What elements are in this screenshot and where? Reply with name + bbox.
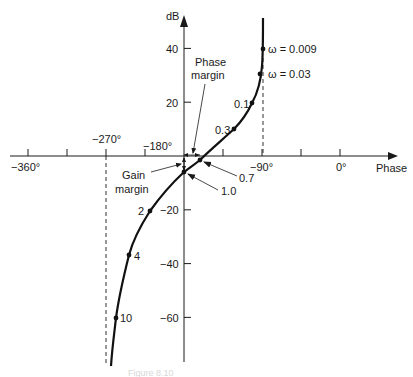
point-label-0.1: 0.1 [234, 98, 249, 110]
point-label-omega-0.03: ω = 0.03 [268, 68, 311, 80]
point-label-10: 10 [120, 312, 132, 324]
leader-arrow-0.7 [204, 162, 237, 176]
phase-margin-leader-arrow [193, 84, 205, 153]
x-axis: −360° −270° −180° −90° 0° Phase [10, 133, 407, 174]
x-tick-label-0: 0° [336, 161, 347, 173]
phase-margin-label-line2: margin [191, 69, 225, 81]
x-axis-label: Phase [376, 162, 407, 174]
figure-caption: Figure 8.10 [128, 368, 174, 377]
point-omega-0.3 [232, 127, 237, 132]
point-omega-4 [127, 253, 132, 258]
point-label-0.3: 0.3 [215, 124, 230, 136]
gain-margin-annotation: Gain margin [115, 157, 186, 195]
y-tick-label-minus-60: −60 [160, 312, 179, 324]
point-label-4: 4 [134, 250, 140, 262]
x-tick-label-minus-360: −360° [11, 161, 40, 173]
leader-arrow-1.0 [188, 174, 218, 190]
point-omega-0.7 [198, 158, 203, 163]
point-label-0.7: 0.7 [239, 172, 254, 184]
point-omega-2 [148, 209, 153, 214]
x-tick-label-minus-180: −180° [143, 140, 172, 152]
gain-margin-label-line2: margin [115, 183, 149, 195]
phase-margin-label-line1: Phase [195, 56, 226, 68]
gain-margin-leader-arrow [151, 164, 181, 172]
y-tick-label-20: 20 [166, 97, 178, 109]
point-omega-0.03 [258, 72, 263, 77]
y-axis-label: dB [166, 10, 179, 22]
y-axis-arrow-icon [180, 15, 188, 27]
point-omega-10 [114, 316, 119, 321]
point-label-1.0: 1.0 [221, 185, 236, 197]
x-tick-label-minus-270: −270° [92, 133, 121, 145]
y-tick-label-minus-20: −20 [160, 204, 179, 216]
gain-margin-up-arrow-icon [182, 157, 186, 162]
y-tick-label-minus-40: −40 [160, 258, 179, 270]
y-axis: dB 40 20 −20 −40 −60 [160, 10, 191, 362]
point-omega-0.009 [261, 47, 266, 52]
point-label-omega-0.009: ω = 0.009 [268, 43, 317, 55]
x-axis-arrow-icon [388, 152, 398, 160]
point-omega-0.1 [250, 101, 255, 106]
point-label-2: 2 [138, 205, 144, 217]
y-axis-ticks [184, 48, 191, 317]
y-tick-label-40: 40 [166, 43, 178, 55]
gain-margin-label-line1: Gain [122, 169, 145, 181]
nichols-chart: −360° −270° −180° −90° 0° Phase dB 40 20… [0, 0, 413, 377]
